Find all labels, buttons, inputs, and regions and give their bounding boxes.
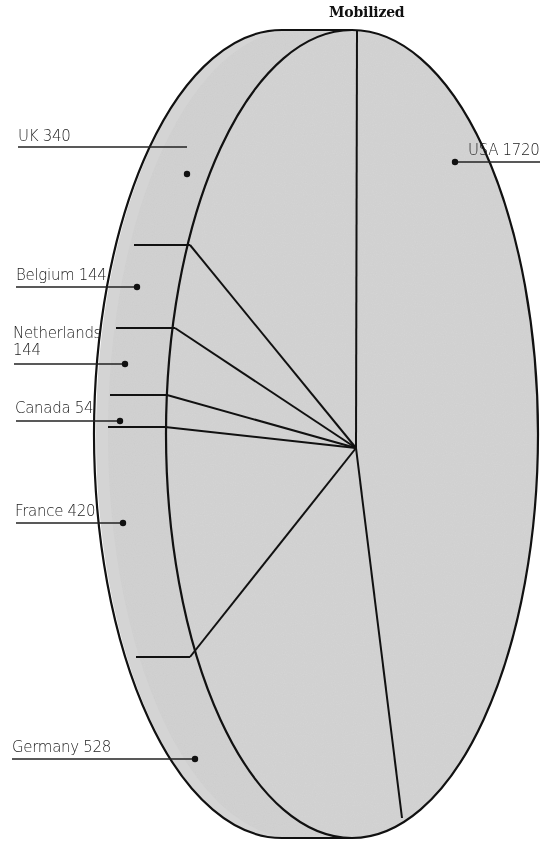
canada-dot (117, 418, 123, 424)
label-germany: Germany 528 (12, 739, 111, 756)
pie-chart (0, 0, 553, 850)
label-canada: Canada 54 (15, 400, 93, 417)
usa-dot (452, 159, 458, 165)
label-belgium: Belgium 144 (16, 267, 107, 284)
netherlands-dot (122, 361, 128, 367)
label-netherlands-name: Netherlands (13, 325, 101, 342)
label-france: France 420 (15, 503, 95, 520)
label-usa: USA 1720 (468, 142, 540, 159)
france-dot (120, 520, 126, 526)
label-netherlands-value: 144 (13, 342, 101, 359)
label-netherlands: Netherlands 144 (13, 325, 101, 359)
label-uk: UK 340 (18, 128, 70, 145)
belgium-dot (134, 284, 140, 290)
germany-dot (192, 756, 198, 762)
